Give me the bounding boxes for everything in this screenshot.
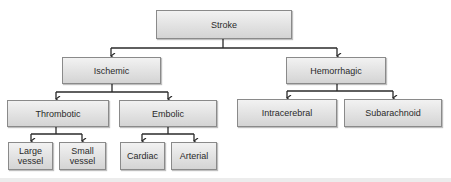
node-arterial: Arterial — [171, 142, 217, 170]
node-subarachnoid: Subarachnoid — [344, 99, 442, 127]
node-label: Large vessel — [18, 146, 44, 166]
node-stroke: Stroke — [156, 10, 292, 39]
stroke-classification-diagram: Stroke Ischemic Hemorrhagic Thrombotic E… — [0, 0, 451, 182]
node-label: Cardiac — [127, 151, 158, 161]
node-label: Small vessel — [70, 146, 96, 166]
node-hemorrhagic: Hemorrhagic — [286, 57, 386, 84]
node-label: Ischemic — [94, 66, 130, 76]
node-label: Thrombotic — [35, 109, 80, 119]
bottom-divider — [0, 178, 451, 182]
node-small-vessel: Small vessel — [59, 142, 106, 170]
node-intracerebral: Intracerebral — [237, 99, 337, 127]
node-thrombotic: Thrombotic — [7, 100, 109, 127]
node-cardiac: Cardiac — [120, 142, 165, 170]
node-label: Embolic — [152, 109, 184, 119]
node-embolic: Embolic — [119, 100, 217, 127]
node-label: Stroke — [211, 20, 237, 30]
node-ischemic: Ischemic — [62, 57, 161, 84]
node-label: Subarachnoid — [365, 108, 421, 118]
node-label: Arterial — [180, 151, 209, 161]
node-label: Hemorrhagic — [310, 66, 362, 76]
node-label: Intracerebral — [262, 108, 313, 118]
node-large-vessel: Large vessel — [8, 142, 53, 170]
